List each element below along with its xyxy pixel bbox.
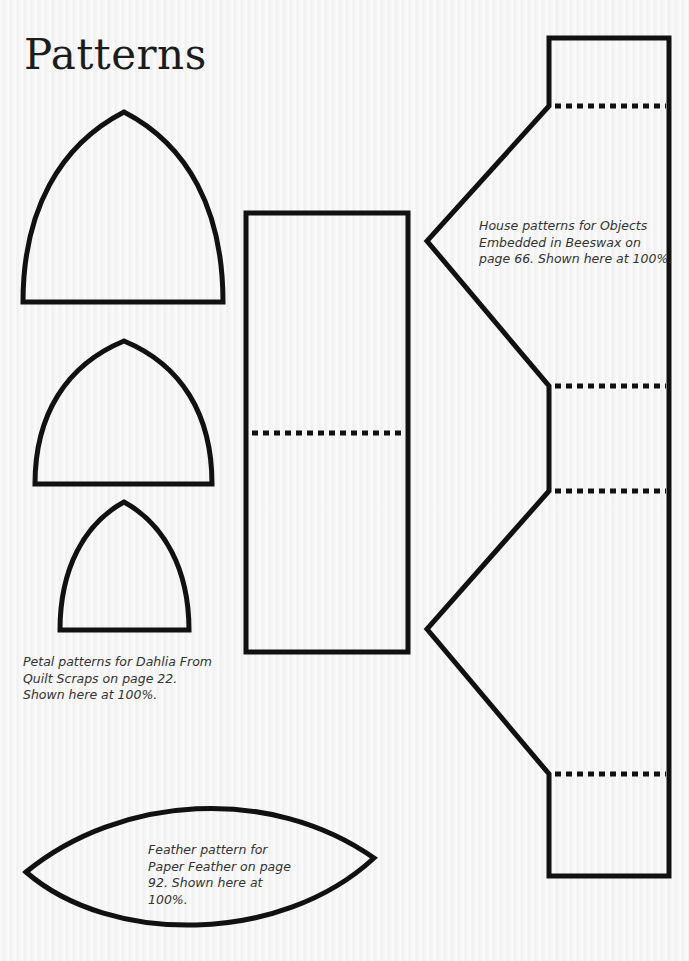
- petal-caption: Petal patterns for Dahlia From Quilt Scr…: [23, 654, 223, 704]
- pattern-shapes: [0, 0, 689, 961]
- petal-pattern-medium: [35, 341, 212, 484]
- petal-pattern-small: [60, 502, 189, 630]
- house-rectangle-pattern: [246, 213, 408, 652]
- house-pattern: [427, 38, 669, 876]
- house-caption: House patterns for Objects Embedded in B…: [479, 218, 679, 268]
- petal-pattern-large: [23, 112, 223, 302]
- feather-caption: Feather pattern for Paper Feather on pag…: [148, 842, 298, 908]
- pattern-page: Patterns Petal patterns for Dahlia From …: [0, 0, 689, 961]
